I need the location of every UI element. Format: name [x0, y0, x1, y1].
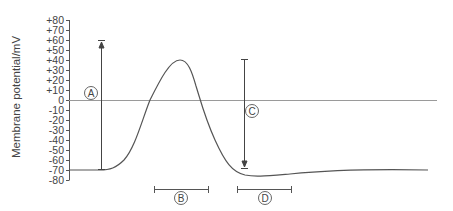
action-potential-curve [69, 60, 428, 176]
y-axis [66, 20, 70, 181]
arrow-a [98, 41, 105, 171]
svg-text:D: D [261, 193, 268, 204]
label-d: D [259, 192, 272, 205]
svg-text:C: C [248, 106, 255, 117]
label-c: C [246, 105, 259, 118]
chart-canvas: A B C D [0, 0, 453, 211]
arrow-c [241, 59, 248, 169]
label-b: B [175, 192, 188, 205]
svg-text:B: B [178, 193, 185, 204]
svg-text:A: A [88, 88, 95, 99]
label-a: A [85, 87, 98, 100]
